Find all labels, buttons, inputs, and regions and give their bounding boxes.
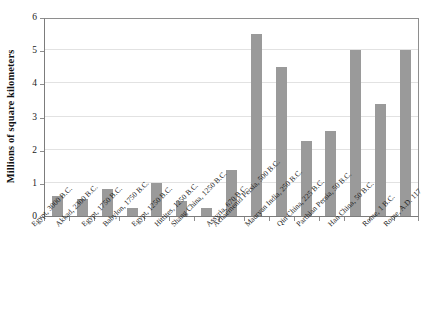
x-axis-tick-mark [194, 217, 195, 221]
y-axis-tick-mark [40, 184, 44, 185]
y-axis-tick-label: 5 [0, 45, 37, 55]
y-axis-tick-label: 4 [0, 78, 37, 88]
bar[interactable] [400, 50, 411, 216]
y-axis-tick-mark [40, 118, 44, 119]
y-axis-tick-mark [40, 51, 44, 52]
bar[interactable] [325, 131, 336, 216]
x-axis-tick-mark [119, 217, 120, 221]
x-axis-labels: Egypt, 3000 B.C.Akkad, 2300 B.C.Egypt, 1… [44, 222, 419, 312]
x-axis-tick-mark [269, 217, 270, 221]
x-axis-tick-end [418, 217, 419, 221]
x-axis-tick-mark [319, 217, 320, 221]
y-axis-tick-label: 2 [0, 145, 37, 155]
y-axis-tick-label: 3 [0, 112, 37, 122]
bar-chart-figure: Millions of square kilometers 0123456 Eg… [0, 0, 435, 314]
y-axis-tick-mark [40, 18, 44, 19]
y-axis-tick-mark [40, 84, 44, 85]
y-axis-tick-label: 6 [0, 12, 37, 22]
y-axis-tick-label: 1 [0, 178, 37, 188]
y-axis-tick-mark [40, 151, 44, 152]
bar-slot [393, 19, 418, 216]
x-axis-tick-mark [344, 217, 345, 221]
